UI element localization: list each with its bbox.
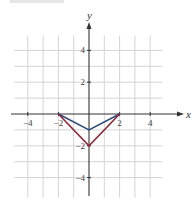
x-tick-label: −2 bbox=[54, 118, 64, 128]
coordinate-plane: xy−4−22442−2−4 bbox=[0, 0, 196, 203]
y-tick-label: −4 bbox=[75, 173, 85, 183]
y-tick-label: −2 bbox=[75, 141, 85, 151]
tick-labels: xy−4−22442−2−4 bbox=[23, 9, 191, 183]
y-axis-label: y bbox=[86, 9, 92, 21]
axes bbox=[11, 22, 184, 196]
x-tick-label: 4 bbox=[148, 118, 153, 128]
x-tick-label: 2 bbox=[117, 118, 122, 128]
y-axis-arrow-icon bbox=[87, 22, 92, 29]
x-tick-label: −4 bbox=[23, 118, 33, 128]
y-tick-label: 2 bbox=[81, 77, 86, 87]
x-axis-arrow-icon bbox=[177, 112, 184, 117]
y-tick-label: 4 bbox=[81, 45, 86, 55]
x-axis-label: x bbox=[185, 108, 191, 120]
